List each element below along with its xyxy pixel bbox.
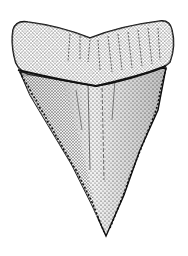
illustration-canvas: [0, 0, 188, 256]
tooth-crown: [20, 68, 166, 236]
shark-tooth-illustration: [0, 0, 188, 256]
